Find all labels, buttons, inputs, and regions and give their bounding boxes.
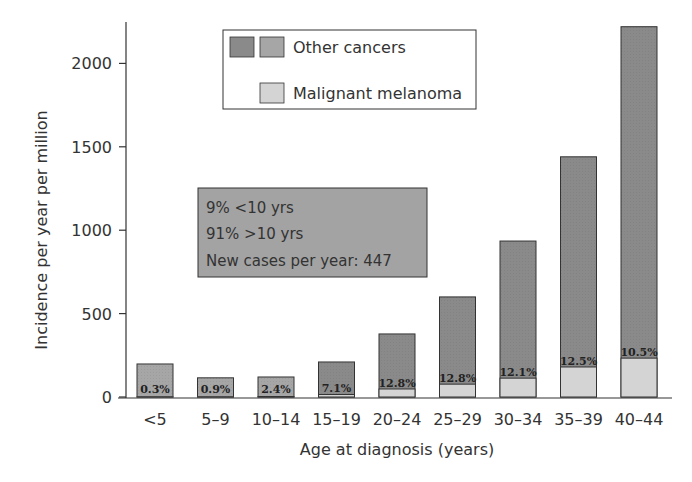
legend: Other cancers Malignant melanoma bbox=[223, 30, 476, 109]
annotation-line-1: 9% <10 yrs bbox=[206, 199, 294, 217]
bar-percent-label: 12.8% bbox=[378, 377, 416, 390]
annotation-line-3: New cases per year: 447 bbox=[206, 252, 392, 270]
legend-label-other: Other cancers bbox=[293, 38, 406, 57]
bar-melanoma bbox=[500, 378, 536, 397]
x-tick-label: 25–29 bbox=[433, 410, 482, 429]
legend-swatch-other-dark bbox=[230, 37, 254, 57]
bar-percent-label: 0.9% bbox=[201, 383, 231, 396]
bar-percent-label: 0.3% bbox=[140, 383, 170, 396]
x-tick-label: <5 bbox=[143, 410, 167, 429]
annotation-line-2: 91% >10 yrs bbox=[206, 225, 304, 243]
legend-swatch-melanoma bbox=[260, 83, 284, 103]
x-axis-label: Age at diagnosis (years) bbox=[300, 440, 494, 459]
bar-group: 7.1% bbox=[319, 362, 355, 397]
x-tick-label: 20–24 bbox=[373, 410, 422, 429]
bar-group: 12.8% bbox=[439, 297, 477, 397]
bar-percent-label: 12.5% bbox=[560, 355, 598, 368]
bar-chart: 0500100015002000 <55–910–1415–1920–2425–… bbox=[0, 0, 692, 482]
bar-texture bbox=[621, 27, 657, 397]
y-axis: 0500100015002000 bbox=[71, 22, 126, 407]
bar-percent-label: 12.8% bbox=[439, 372, 477, 385]
bar-group: 12.1% bbox=[499, 241, 537, 397]
bar-percent-label: 7.1% bbox=[322, 382, 352, 395]
annotation-box: 9% <10 yrs 91% >10 yrs New cases per yea… bbox=[198, 188, 427, 277]
bar-percent-label: 12.1% bbox=[499, 366, 537, 379]
bar-melanoma bbox=[561, 367, 597, 397]
bar-group: 0.9% bbox=[198, 378, 234, 397]
x-tick-label: 40–44 bbox=[615, 410, 664, 429]
bar-percent-label: 10.5% bbox=[620, 346, 658, 359]
x-tick-label: 15–19 bbox=[312, 410, 361, 429]
y-axis-label: Incidence per year per million bbox=[32, 110, 51, 349]
bar-group: 12.5% bbox=[560, 157, 598, 397]
bar-percent-label: 2.4% bbox=[261, 383, 291, 396]
y-tick-label: 2000 bbox=[71, 54, 112, 73]
y-tick-label: 1000 bbox=[71, 221, 112, 240]
bar-melanoma bbox=[621, 358, 657, 397]
bar-group: 2.4% bbox=[258, 377, 294, 397]
y-tick-label: 0 bbox=[102, 388, 112, 407]
y-tick-label: 500 bbox=[81, 305, 112, 324]
x-tick-label: 5–9 bbox=[201, 410, 229, 429]
x-tick-label: 10–14 bbox=[252, 410, 301, 429]
x-axis: <55–910–1415–1920–2425–2930–3435–3940–44 bbox=[118, 398, 672, 429]
bar-melanoma bbox=[379, 389, 415, 397]
bar-group: 12.8% bbox=[378, 334, 416, 397]
bar-melanoma bbox=[258, 396, 294, 397]
bar-melanoma bbox=[440, 384, 476, 397]
legend-label-melanoma: Malignant melanoma bbox=[293, 84, 462, 103]
x-tick-label: 30–34 bbox=[494, 410, 543, 429]
x-tick-label: 35–39 bbox=[554, 410, 603, 429]
y-tick-label: 1500 bbox=[71, 138, 112, 157]
bar-group: 10.5% bbox=[620, 27, 658, 397]
bar-group: 0.3% bbox=[137, 364, 173, 397]
legend-swatch-other-light bbox=[260, 37, 284, 57]
